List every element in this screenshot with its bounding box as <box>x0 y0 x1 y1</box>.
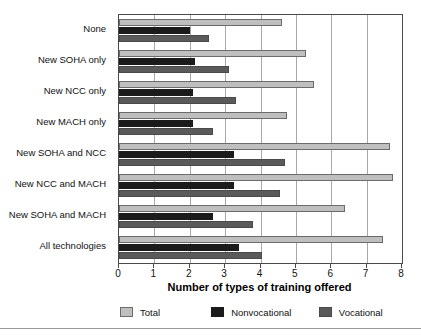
category-label: New NCC only <box>0 76 112 107</box>
legend-label-total: Total <box>140 307 160 318</box>
plot-area-wrapper: None New SOHA only New NCC only New MACH… <box>0 6 421 262</box>
bar-vocational <box>119 252 262 259</box>
bar-row <box>119 244 402 251</box>
bar-vocational <box>119 35 209 42</box>
legend-label-vocational: Vocational <box>339 307 383 318</box>
bar-vocational <box>119 97 236 104</box>
bar-row <box>119 159 402 166</box>
category-axis-labels: None New SOHA only New NCC only New MACH… <box>0 14 112 262</box>
bar-group <box>119 15 402 46</box>
plot-area <box>118 14 403 264</box>
bar-total <box>119 205 345 212</box>
category-label: New SOHA only <box>0 45 112 76</box>
bar-row <box>119 182 402 189</box>
bar-vocational <box>119 190 280 197</box>
bar-group <box>119 170 402 201</box>
bar-group <box>119 139 402 170</box>
bar-row <box>119 221 402 228</box>
bar-group <box>119 232 402 263</box>
bar-total <box>119 19 282 26</box>
bar-row <box>119 174 402 181</box>
category-label: All technologies <box>0 231 112 262</box>
bar-row <box>119 190 402 197</box>
legend-item-vocational: Vocational <box>319 307 410 318</box>
bar-row <box>119 35 402 42</box>
legend-item-nonvocational: Nonvocational <box>211 307 319 318</box>
bar-row <box>119 252 402 259</box>
bar-nonvocational <box>119 182 234 189</box>
legend-swatch-vocational <box>319 307 332 317</box>
bar-vocational <box>119 159 285 166</box>
x-axis-tick-label: 7 <box>363 268 369 279</box>
category-label: New SOHA and MACH <box>0 200 112 231</box>
category-label: New MACH only <box>0 107 112 138</box>
bar-nonvocational <box>119 244 239 251</box>
legend-swatch-nonvocational <box>211 307 224 317</box>
bar-group <box>119 201 402 232</box>
bar-nonvocational <box>119 120 193 127</box>
bar-row <box>119 19 402 26</box>
category-label: None <box>0 14 112 45</box>
bar-row <box>119 236 402 243</box>
category-label: New SOHA and NCC <box>0 138 112 169</box>
legend-label-nonvocational: Nonvocational <box>231 307 291 318</box>
bar-total <box>119 81 314 88</box>
bar-row <box>119 112 402 119</box>
bar-vocational <box>119 66 229 73</box>
x-axis-title: Number of types of training offered <box>118 281 401 293</box>
bar-group <box>119 77 402 108</box>
x-axis-tick-label: 5 <box>292 268 298 279</box>
bar-nonvocational <box>119 213 213 220</box>
bar-row <box>119 151 402 158</box>
bar-total <box>119 143 390 150</box>
bar-group <box>119 108 402 139</box>
bar-nonvocational <box>119 89 193 96</box>
x-axis-tick-label: 8 <box>398 268 404 279</box>
bar-row <box>119 213 402 220</box>
bar-row <box>119 120 402 127</box>
bar-row <box>119 205 402 212</box>
bar-vocational <box>119 221 253 228</box>
x-axis-tick-label: 2 <box>186 268 192 279</box>
footer-divider <box>0 328 421 329</box>
bar-row <box>119 143 402 150</box>
legend-item-total: Total <box>120 307 211 318</box>
x-axis-tick-label: 3 <box>221 268 227 279</box>
bar-total <box>119 174 393 181</box>
bar-total <box>119 50 306 57</box>
bar-row <box>119 58 402 65</box>
bar-row <box>119 50 402 57</box>
bar-nonvocational <box>119 58 195 65</box>
bar-row <box>119 97 402 104</box>
bar-nonvocational <box>119 151 234 158</box>
x-axis-tick-label: 6 <box>327 268 333 279</box>
x-axis: 012345678 <box>118 264 401 278</box>
bar-nonvocational <box>119 27 190 34</box>
category-label: New NCC and MACH <box>0 169 112 200</box>
bar-groups <box>119 15 402 263</box>
x-axis-tick-label: 0 <box>115 268 121 279</box>
bar-row <box>119 66 402 73</box>
bar-chart: None New SOHA only New NCC only New MACH… <box>0 0 421 336</box>
bar-row <box>119 128 402 135</box>
bar-row <box>119 81 402 88</box>
bar-total <box>119 236 383 243</box>
bar-row <box>119 89 402 96</box>
x-axis-tick-label: 4 <box>257 268 263 279</box>
bar-row <box>119 27 402 34</box>
bar-vocational <box>119 128 213 135</box>
chart-legend: Total Nonvocational Vocational <box>120 304 410 320</box>
bar-group <box>119 46 402 77</box>
x-axis-tick-label: 1 <box>151 268 157 279</box>
legend-swatch-total <box>120 307 133 317</box>
bar-total <box>119 112 287 119</box>
